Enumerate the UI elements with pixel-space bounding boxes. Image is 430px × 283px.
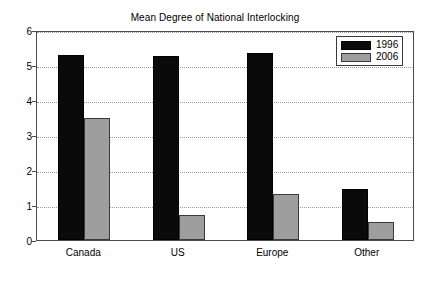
y-tick-label: 0 [6,236,32,247]
y-tick-label: 2 [6,166,32,177]
bar-other-1996 [342,189,368,240]
x-tick-label-canada: Canada [36,247,131,258]
legend-swatch-1996 [341,41,371,50]
bar-group [58,32,110,240]
bar-us-1996 [153,56,179,240]
y-tick-label: 1 [6,201,32,212]
bar-europe-1996 [247,53,273,240]
legend-item-2006: 2006 [341,52,398,62]
y-tick-mark [32,241,36,242]
bar-other-2006 [368,222,394,240]
bar-group [247,32,299,240]
bar-europe-2006 [273,194,299,240]
y-tick-label: 5 [6,61,32,72]
x-tick-label-europe: Europe [225,247,320,258]
bar-canada-2006 [84,118,110,241]
y-tick-label: 6 [6,26,32,37]
y-tick-label: 4 [6,96,32,107]
legend-swatch-2006 [341,53,371,62]
bar-us-2006 [179,215,205,240]
legend-item-1996: 1996 [341,40,398,50]
bar-group [153,32,205,240]
y-tick-label: 3 [6,131,32,142]
legend-label-1996: 1996 [376,40,398,50]
chart-legend: 19962006 [336,36,403,66]
x-tick-label-us: US [131,247,226,258]
bar-canada-1996 [58,55,84,241]
legend-label-2006: 2006 [376,52,398,62]
chart-title: Mean Degree of National Interlocking [0,12,430,23]
x-tick-label-other: Other [320,247,415,258]
chart-figure: Mean Degree of National Interlocking 012… [0,0,430,283]
